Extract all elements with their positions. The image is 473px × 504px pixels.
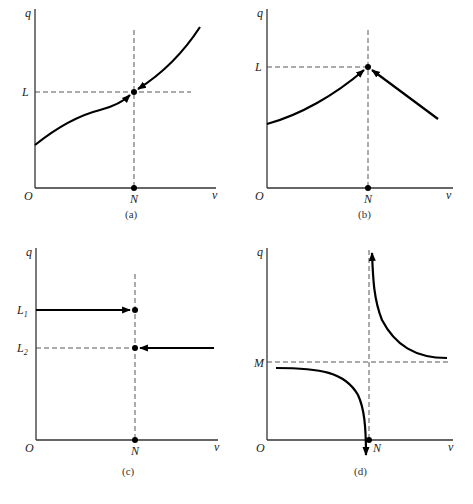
curve-right-branch (138, 27, 200, 89)
n-point (366, 437, 372, 443)
curve-right-branch (372, 253, 447, 358)
curve-left-branch (35, 95, 130, 145)
panel-d: q M O N v (d) (253, 245, 454, 478)
l2-point (132, 345, 138, 351)
n-label: N (129, 192, 139, 206)
n-point (365, 185, 371, 191)
origin-label: O (255, 189, 264, 203)
y-axis-label: q (257, 6, 263, 20)
caption: (d) (354, 465, 367, 478)
panel-a: q L O N v (a) (21, 6, 218, 221)
equilibrium-point (131, 89, 137, 95)
caption: (c) (122, 465, 135, 478)
panel-b: q L O N v (b) (254, 6, 453, 221)
figure-canvas: q L O N v (a) q L O N v (b) q L1 L2 (0, 0, 473, 504)
m-label: M (253, 356, 265, 370)
origin-label: O (25, 441, 34, 455)
caption: (a) (125, 208, 138, 221)
l1-point (132, 307, 138, 313)
caption: (b) (358, 208, 371, 221)
x-axis-label: v (446, 188, 452, 202)
n-label: N (372, 441, 382, 455)
l-label: L (21, 85, 29, 99)
n-label: N (363, 192, 373, 206)
panel-c: q L1 L2 O N v (c) (16, 245, 220, 478)
l2-label: L2 (16, 341, 28, 357)
curve-left-branch (267, 70, 364, 124)
x-axis-label: v (214, 440, 220, 454)
n-point (131, 185, 137, 191)
origin-label: O (24, 189, 33, 203)
y-axis-label: q (25, 6, 31, 20)
x-axis-label: v (448, 440, 454, 454)
n-label: N (130, 444, 140, 458)
curve-left-branch (276, 368, 366, 455)
curve-right-branch (372, 70, 438, 119)
peak-point (365, 64, 371, 70)
y-axis-label: q (26, 245, 32, 259)
origin-label: O (256, 441, 265, 455)
n-point (132, 437, 138, 443)
y-axis-label: q (257, 245, 263, 259)
l-label: L (254, 60, 262, 74)
x-axis-label: v (212, 188, 218, 202)
l1-label: L1 (16, 303, 28, 319)
